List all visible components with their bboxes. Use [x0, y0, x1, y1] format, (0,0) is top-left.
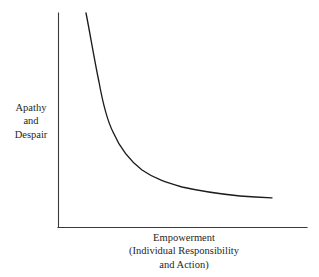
y-axis-label-line-2: and — [0, 114, 62, 127]
x-axis-label: Empowerment (Individual Responsibility a… — [104, 231, 264, 271]
x-axis-label-line-2: (Individual Responsibility — [104, 244, 264, 257]
y-axis-label-line-1: Apathy — [0, 101, 62, 114]
apathy-empowerment-curve — [86, 13, 272, 198]
chart-figure: Apathy and Despair Empowerment (Individu… — [0, 0, 319, 277]
x-axis-label-line-3: and Action) — [104, 258, 264, 271]
x-axis-label-line-1: Empowerment — [104, 231, 264, 244]
y-axis-label-line-3: Despair — [0, 128, 62, 141]
y-axis-label: Apathy and Despair — [0, 101, 62, 141]
